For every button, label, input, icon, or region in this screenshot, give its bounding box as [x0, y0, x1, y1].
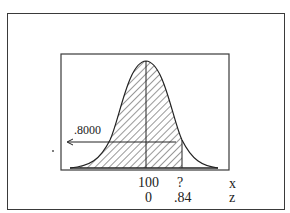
stray-mark [52, 150, 54, 152]
x-axis-label: x [229, 176, 236, 191]
x-unknown-label: ? [177, 175, 183, 190]
x-mean-label: 100 [138, 175, 159, 190]
normal-curve-chart: .8000 100 ? x 0 .84 z [0, 0, 290, 213]
shaded-area [70, 61, 218, 168]
area-label: .8000 [74, 123, 101, 137]
z-axis-label: z [229, 190, 235, 205]
z-mean-label: 0 [145, 190, 152, 205]
z-value-label: .84 [174, 190, 192, 205]
